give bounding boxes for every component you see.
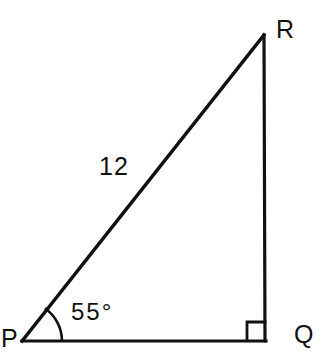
triangle-figure: P Q R 12 55° [0, 0, 326, 359]
triangle-drawing [0, 0, 326, 359]
angle-measure-label-p: 55° [71, 300, 113, 324]
side-qr-line [264, 35, 265, 341]
right-angle-marker-q [247, 322, 265, 340]
vertex-label-q: Q [294, 322, 313, 347]
vertex-label-p: P [1, 326, 18, 351]
side-length-label-pr: 12 [99, 154, 129, 179]
side-pr-line [22, 35, 264, 341]
angle-arc-p [45, 308, 62, 341]
vertex-label-r: R [276, 17, 294, 42]
